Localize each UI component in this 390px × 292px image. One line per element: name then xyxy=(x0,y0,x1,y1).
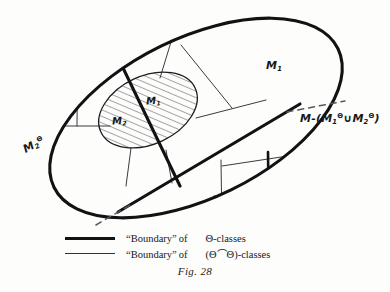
label-m1-inner: M1 xyxy=(146,96,161,108)
thin-line-5 xyxy=(196,100,266,118)
legend-swatch-thin xyxy=(62,253,118,254)
complement-close: ) xyxy=(375,112,380,125)
legend-row-theta-meet-theta-classes: “Boundary”of(Θ⌒Θ)-classes xyxy=(62,246,332,261)
caption-label: Fig. xyxy=(178,265,198,277)
label-m2-inner: M2 xyxy=(112,116,127,128)
complement-term2: M2Θ xyxy=(352,112,374,125)
thick-segment-lower-right xyxy=(268,152,269,232)
outer-ellipse-boundary xyxy=(19,0,373,259)
legend-classes-2: (Θ⌒Θ)-classes xyxy=(191,249,270,260)
figure-caption: Fig.28 xyxy=(0,265,390,277)
dashed-lower-left xyxy=(96,204,132,225)
legend-quoted-1: “Boundary” xyxy=(126,233,177,244)
thick-boundary-group xyxy=(19,0,373,259)
label-m2-inner-sub: 2 xyxy=(122,119,127,126)
label-m1-inner-sub: 1 xyxy=(156,99,161,106)
thin-line-6 xyxy=(126,148,131,186)
label-m1-outer: M1 xyxy=(266,60,282,73)
legend-of-2: of xyxy=(177,249,192,260)
legend-row-theta-classes: “Boundary”ofΘ-classes xyxy=(62,231,332,246)
legend-swatch-thick xyxy=(62,237,118,240)
label-complement: M-(M1Θ∪M2Θ) xyxy=(300,113,380,126)
caption-number: 28 xyxy=(197,265,212,277)
complement-lead: M-( xyxy=(300,112,321,125)
label-m1-outer-sub: 1 xyxy=(277,65,282,73)
legend-text-theta-meet: “Boundary”of(Θ⌒Θ)-classes xyxy=(118,246,270,261)
legend: “Boundary”ofΘ-classes “Boundary”of(Θ⌒Θ)-… xyxy=(62,231,332,261)
inner-hatched-ellipse xyxy=(87,57,210,163)
figure-28: M1 M1 M2 M2Θ M-(M1Θ∪M2Θ) “Boundary”ofΘ-c… xyxy=(0,0,390,292)
legend-text-theta: “Boundary”ofΘ-classes xyxy=(118,233,246,244)
legend-of-1: of xyxy=(177,233,192,244)
thin-line-12 xyxy=(196,224,300,226)
complement-term1: M1Θ xyxy=(321,112,343,125)
legend-quoted-2: “Boundary” xyxy=(126,249,177,260)
legend-classes-1: Θ-classes xyxy=(191,233,245,244)
